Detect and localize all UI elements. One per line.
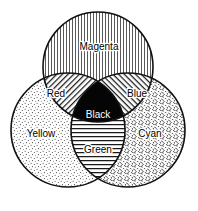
label-green: Green (84, 144, 112, 155)
venn-diagram-container: Magenta Yellow Cyan Red Blue Green Black (0, 0, 198, 211)
label-magenta: Magenta (80, 41, 119, 52)
venn-diagram: Magenta Yellow Cyan Red Blue Green Black (0, 0, 198, 211)
label-red: Red (47, 88, 65, 99)
label-black: Black (86, 109, 111, 120)
label-blue: Blue (127, 88, 147, 99)
label-yellow: Yellow (27, 128, 56, 139)
label-cyan: Cyan (138, 128, 161, 139)
